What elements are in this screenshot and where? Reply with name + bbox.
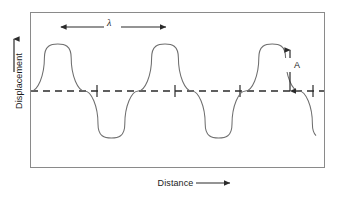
wavelength-symbol-label: λ bbox=[107, 17, 111, 28]
y-axis-group: Displacement bbox=[0, 28, 30, 158]
wave-diagram-figure: Displacement Distance λ A bbox=[0, 0, 338, 197]
x-axis-label: Distance bbox=[158, 178, 194, 188]
amplitude-symbol-label: A bbox=[294, 60, 300, 70]
y-axis-label: Displacement bbox=[14, 21, 24, 141]
x-axis-group: Distance bbox=[30, 172, 325, 194]
plot-frame bbox=[30, 12, 325, 168]
